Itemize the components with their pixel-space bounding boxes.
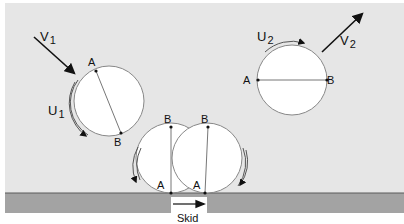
point-a-marker bbox=[94, 69, 97, 72]
point-a-label: A bbox=[88, 57, 95, 68]
point-a-label: A bbox=[193, 180, 200, 191]
point-b-label: B bbox=[327, 75, 334, 86]
point-b-label: B bbox=[201, 114, 208, 125]
point-a-label: A bbox=[157, 180, 164, 191]
point-a-marker bbox=[169, 191, 172, 194]
point-b-marker bbox=[119, 131, 122, 134]
ground bbox=[5, 193, 404, 213]
u1-label: U1 bbox=[48, 104, 65, 120]
point-a-label: A bbox=[243, 75, 250, 86]
u2-label: U2 bbox=[257, 30, 274, 46]
point-b-marker bbox=[206, 125, 209, 128]
point-b-marker bbox=[169, 125, 172, 128]
point-a-marker bbox=[203, 191, 206, 194]
v1-label: V1 bbox=[40, 30, 56, 46]
v2-label: V2 bbox=[340, 34, 356, 50]
skid-diagram: V1 U1 A B U2 V2 A B B B A A Skid bbox=[0, 0, 404, 224]
point-b-label: B bbox=[114, 137, 121, 148]
point-b-label: B bbox=[164, 114, 171, 125]
skid-label: Skid bbox=[177, 213, 198, 224]
point-a-marker bbox=[256, 78, 259, 81]
incoming-wheel bbox=[74, 66, 144, 136]
